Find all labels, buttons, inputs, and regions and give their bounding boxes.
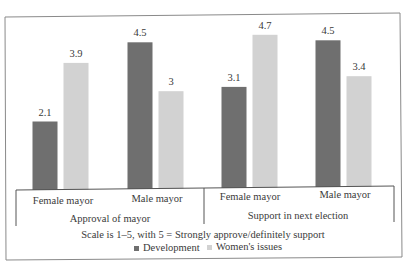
legend-swatch-womens-issues	[207, 245, 212, 250]
bar-development-1	[128, 42, 153, 189]
data-label-development-2: 3.1	[227, 72, 240, 83]
bar-womens-issues-1	[159, 91, 184, 189]
data-label-development-1: 4.5	[133, 27, 146, 38]
tick-label-female-mayor-2: Female mayor	[220, 191, 281, 202]
data-label-womens-issues-3: 3.4	[352, 61, 366, 72]
tick-label-male-mayor-1: Male mayor	[131, 193, 183, 204]
tick-label-female-mayor-1: Female mayor	[33, 195, 94, 206]
bars-layer	[33, 35, 372, 190]
legend-label-development: Development	[143, 242, 200, 253]
data-label-womens-issues-1: 3	[168, 76, 173, 87]
group-label-support: Support in next election	[248, 210, 349, 221]
bar-development-2	[222, 87, 247, 188]
legend-label-womens-issues: Women's issues	[216, 241, 282, 252]
x-axis-title: Scale is 1–5, with 5 = Strongly approve/…	[81, 229, 325, 240]
bar-womens-issues-3	[347, 76, 372, 187]
data-label-womens-issues-2: 4.7	[258, 20, 271, 31]
legend: Development Women's issues	[134, 241, 282, 253]
bar-womens-issues-2	[253, 35, 278, 188]
group-label-approval: Approval of mayor	[70, 213, 151, 224]
legend-swatch-development	[134, 246, 139, 251]
data-label-development-0: 2.1	[38, 107, 51, 118]
bar-development-3	[316, 40, 341, 187]
data-label-development-3: 4.5	[321, 25, 334, 36]
category-labels: Female mayor Male mayor Female mayor Mal…	[33, 189, 371, 224]
tick-label-male-mayor-2: Male mayor	[319, 189, 371, 200]
bar-development-0	[33, 122, 58, 191]
bar-womens-issues-0	[64, 63, 89, 190]
data-label-womens-issues-0: 3.9	[69, 48, 82, 59]
bar-chart: 2.14.53.14.53.934.73.4 Female mayor Male…	[0, 0, 406, 270]
